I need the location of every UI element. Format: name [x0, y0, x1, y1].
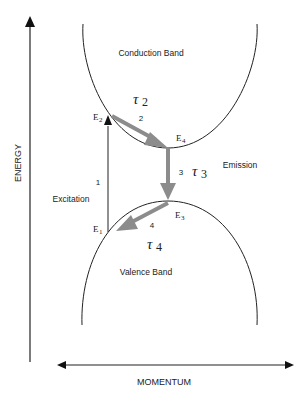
excitation-step-number: 1 — [96, 178, 101, 187]
momentum-axis-right-arrowhead-icon — [285, 361, 294, 369]
relaxation-4-step-number: 4 — [150, 221, 155, 230]
tau-3-subscript: 3 — [201, 167, 207, 181]
tau-2-symbol: τ — [133, 91, 139, 107]
relaxation-4-arrow-shaft — [128, 203, 168, 224]
tau-4-subscript: 4 — [156, 240, 162, 254]
tau-2-subscript: 2 — [142, 95, 148, 109]
conduction-band-label: Conduction Band — [118, 48, 183, 58]
energy-axis: ENERGY — [13, 16, 35, 362]
level-e4-subscript: 4 — [182, 137, 186, 145]
conduction-band-curve — [83, 24, 257, 148]
emission-transition: 3 τ 3 Emission — [160, 148, 258, 200]
conduction-relaxation-transition: 2 τ 2 — [112, 91, 168, 148]
tau-4-label: τ 4 — [147, 236, 162, 254]
level-e2-subscript: 2 — [99, 116, 103, 124]
emission-label: Emission — [223, 160, 258, 170]
level-e4-label: E 4 — [176, 133, 186, 145]
tau-4-symbol: τ — [147, 236, 153, 252]
energy-axis-label: ENERGY — [13, 144, 23, 182]
emission-step-number: 3 — [179, 168, 184, 177]
momentum-axis: MOMENTUM — [57, 361, 294, 387]
relaxation-4-arrowhead-icon — [116, 215, 138, 231]
tau-2-label: τ 2 — [133, 91, 148, 109]
excitation-transition: 1 Excitation — [53, 115, 112, 232]
relaxation-2-step-number: 2 — [139, 114, 144, 123]
momentum-axis-left-arrowhead-icon — [57, 361, 66, 369]
tau-3-label: τ 3 — [192, 163, 207, 181]
level-e3-subscript: 3 — [181, 214, 185, 222]
emission-arrowhead-icon — [160, 183, 176, 200]
energy-axis-arrowhead-icon — [25, 16, 35, 27]
level-e1-subscript: 1 — [99, 228, 103, 236]
band-diagram: ENERGY MOMENTUM Conduction Band Valence … — [0, 0, 307, 400]
valence-relaxation-transition: 4 τ 4 — [116, 203, 168, 254]
level-e1-label: E 1 — [93, 224, 103, 236]
tau-3-symbol: τ — [192, 163, 198, 179]
excitation-label: Excitation — [53, 194, 90, 204]
level-e3-label: E 3 — [175, 210, 185, 222]
valence-band-label: Valence Band — [120, 267, 173, 277]
conduction-band: Conduction Band — [83, 24, 257, 148]
level-e2-label: E 2 — [93, 112, 103, 124]
momentum-axis-label: MOMENTUM — [137, 377, 191, 387]
